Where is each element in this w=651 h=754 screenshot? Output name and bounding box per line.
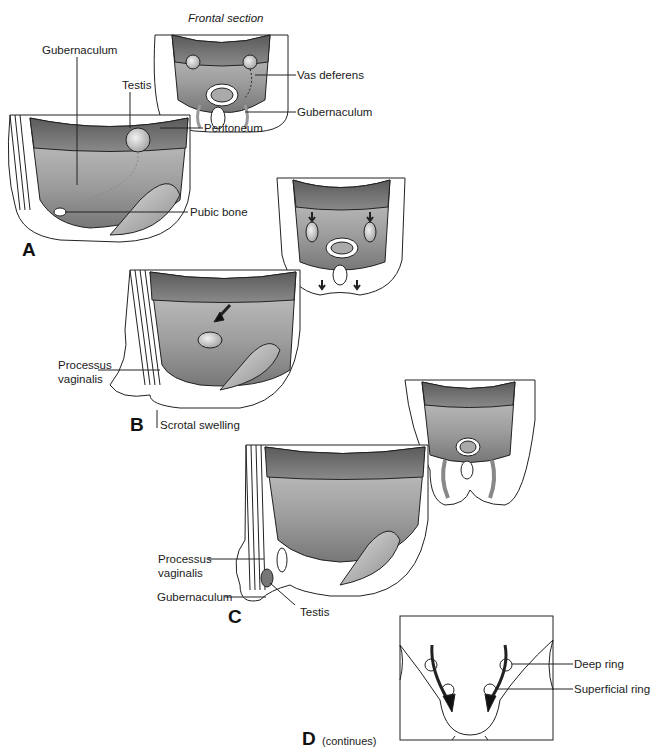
label-gubernaculum-frontal: Gubernaculum	[297, 106, 372, 119]
panel-letter-d: D	[302, 728, 316, 750]
label-gubernaculum-a: Gubernaculum	[42, 44, 117, 57]
panel-d-inguinal-diagram	[400, 616, 553, 740]
label-testis-a: Testis	[122, 79, 151, 92]
label-scrotal-swelling: Scrotal swelling	[160, 419, 240, 432]
panel-c-sagittal-section	[236, 445, 428, 601]
label-peritoneum: Peritoneum	[204, 122, 263, 135]
panel-a-sagittal-section	[8, 115, 190, 242]
panel-letter-c: C	[228, 606, 242, 628]
label-pubic-bone: Pubic bone	[190, 206, 248, 219]
label-processus-b-line2: vaginalis	[58, 373, 103, 386]
label-vas-deferens: Vas deferens	[297, 69, 364, 82]
frontal-section-title: Frontal section	[188, 12, 263, 25]
panel-b-sagittal-section	[110, 270, 300, 408]
label-testis-c: Testis	[300, 606, 329, 619]
label-processus-c-line1: Processus	[158, 553, 212, 566]
panel-letter-b: B	[130, 414, 144, 436]
label-deep-ring: Deep ring	[574, 658, 624, 671]
continues-note: (continues)	[322, 735, 376, 747]
label-processus-c-line2: vaginalis	[158, 567, 203, 580]
panel-letter-a: A	[22, 239, 36, 261]
label-processus-b-line1: Processus	[58, 359, 112, 372]
label-gubernaculum-c: Gubernaculum	[157, 591, 232, 604]
label-superficial-ring: Superficial ring	[574, 683, 650, 696]
